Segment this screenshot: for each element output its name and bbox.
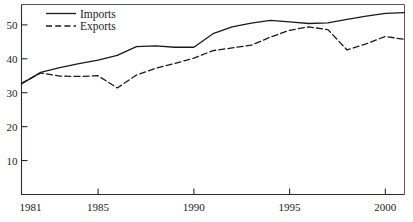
y-tick-label: 20 <box>7 121 19 133</box>
axis-tick-labels: 102030405019811985199019952000 <box>7 19 397 213</box>
data-series <box>22 13 405 88</box>
y-tick-label: 50 <box>7 19 19 31</box>
y-tick-label: 10 <box>7 155 19 167</box>
line-chart: 102030405019811985199019952000 ImportsEx… <box>0 0 413 222</box>
x-tick-label: 1985 <box>87 201 110 213</box>
x-tick-label: 1990 <box>183 201 206 213</box>
x-tick-label: 1995 <box>279 201 302 213</box>
chart-canvas: 102030405019811985199019952000 ImportsEx… <box>0 0 413 222</box>
axis-ticks <box>22 25 386 195</box>
legend-label-imports: Imports <box>80 8 116 21</box>
x-tick-label: 2000 <box>374 201 397 213</box>
x-tick-label: 1981 <box>20 201 42 213</box>
y-tick-label: 40 <box>7 53 19 65</box>
chart-legend: ImportsExports <box>46 8 116 34</box>
legend-label-exports: Exports <box>80 20 116 33</box>
series-line-imports <box>22 13 405 84</box>
y-tick-label: 30 <box>7 87 19 99</box>
series-line-exports <box>22 27 405 88</box>
